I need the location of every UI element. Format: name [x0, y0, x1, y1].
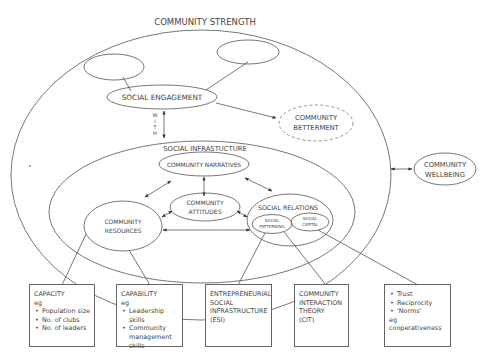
with-letter: H — [153, 130, 157, 136]
social-capital-box: Trust Reciprocity 'Norms' eg cooperative… — [384, 284, 451, 347]
box-line: SOCIAL — [210, 299, 267, 308]
social-relations-label: SOCIAL RELATIONS — [258, 204, 318, 211]
box-title: CAPABILITY — [121, 290, 178, 299]
list-item: 'Norms' — [389, 307, 446, 316]
box-line: INFRASTRUCTURE — [210, 307, 267, 316]
community-narratives-label: COMMUNITY NARRATIVES — [167, 162, 241, 168]
list-item: Leadership skills — [121, 307, 178, 324]
community-betterment-ellipse — [279, 105, 353, 141]
community-attitudes-ellipse — [170, 193, 240, 221]
box-line: INTERACTION — [299, 299, 344, 308]
list-item: Community management skills — [121, 324, 178, 350]
box-line: THEORY — [299, 307, 344, 316]
community-betterment-label: COMMUNITY — [295, 114, 338, 122]
social-capital-label: SOCIAL — [303, 216, 318, 221]
empty-oval-right — [217, 40, 279, 64]
box-line: eg — [389, 316, 446, 325]
community-attitudes-label: ATTITUDES — [189, 208, 222, 215]
list-item: No. of leaders — [34, 324, 90, 333]
community-wellbeing-label: COMMUNITY — [424, 161, 467, 169]
social-capital-label: CAPITAL — [302, 222, 319, 227]
community-betterment-label: BETTERMENT — [293, 124, 339, 132]
community-strength-label: COMMUNITY STRENGTH — [154, 17, 256, 27]
capability-box: CAPABILITY eg Leadership skills Communit… — [116, 284, 183, 347]
community-resources-label: RESOURCES — [105, 227, 142, 234]
community-wellbeing-label: WELLBEING — [425, 171, 465, 179]
list-item: Reciprocity — [389, 299, 446, 308]
box-sub: eg — [121, 299, 178, 308]
capacity-box: CAPACITY eg Population size No. of clubs… — [29, 284, 95, 347]
community-resources-ellipse — [84, 201, 162, 251]
box-title: CAPACITY — [34, 290, 90, 299]
box-line: (CIT) — [299, 316, 344, 325]
esi-box: ENTREPRENEURIAL SOCIAL INFRASTRUCTURE (E… — [205, 284, 272, 347]
community-attitudes-label: COMMUNITY — [186, 199, 224, 206]
list-item: Population size — [34, 307, 90, 316]
list-item: Trust — [389, 290, 446, 299]
box-line: ENTREPRENEURIAL — [210, 290, 267, 299]
box-sub: eg — [34, 299, 90, 308]
box-line: (ESI) — [210, 316, 267, 325]
cit-box: COMMUNITY INTERACTION THEORY (CIT) — [294, 284, 349, 347]
empty-oval-left — [84, 54, 144, 80]
box-line: COMMUNITY — [299, 290, 344, 299]
social-patterning-label: SOCIAL — [265, 218, 280, 223]
community-strength-ellipse — [11, 30, 391, 320]
social-patterning-label: PATTERNING — [260, 224, 285, 229]
box-line: cooperativeness — [389, 324, 446, 333]
list-item: No. of clubs — [34, 316, 90, 325]
community-wellbeing-ellipse — [414, 153, 476, 185]
community-resources-label: COMMUNITY — [104, 218, 142, 225]
social-engagement-label: SOCIAL ENGAGEMENT — [122, 93, 203, 102]
